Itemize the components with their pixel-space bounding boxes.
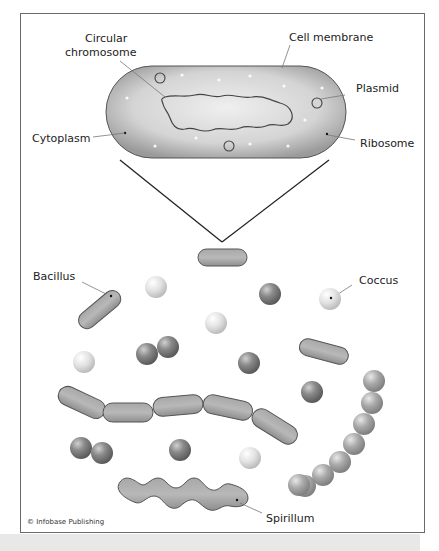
- copyright: © Infobase Publishing: [27, 518, 104, 526]
- bacteria-diagram: Circular chromosome Cell membrane Plasmi…: [0, 0, 439, 551]
- label-ribosome: Ribosome: [360, 137, 415, 150]
- label-chromosome: chromosome: [65, 46, 137, 59]
- bacillus-cell: [198, 249, 247, 266]
- label-circular: Circular: [85, 32, 128, 45]
- label-cell-membrane: Cell membrane: [289, 31, 373, 44]
- label-bacillus: Bacillus: [33, 270, 75, 283]
- label-coccus: Coccus: [359, 274, 398, 287]
- bacillus-chain: [55, 383, 301, 447]
- label-cytoplasm: Cytoplasm: [32, 132, 90, 145]
- label-plasmid: Plasmid: [356, 82, 399, 95]
- prokaryotic-cell: [106, 66, 346, 158]
- bacillus-cell: [75, 287, 124, 332]
- spirillum-cell: [118, 478, 248, 510]
- bacillus-cell: [298, 337, 351, 366]
- label-spirillum: Spirillum: [266, 512, 314, 525]
